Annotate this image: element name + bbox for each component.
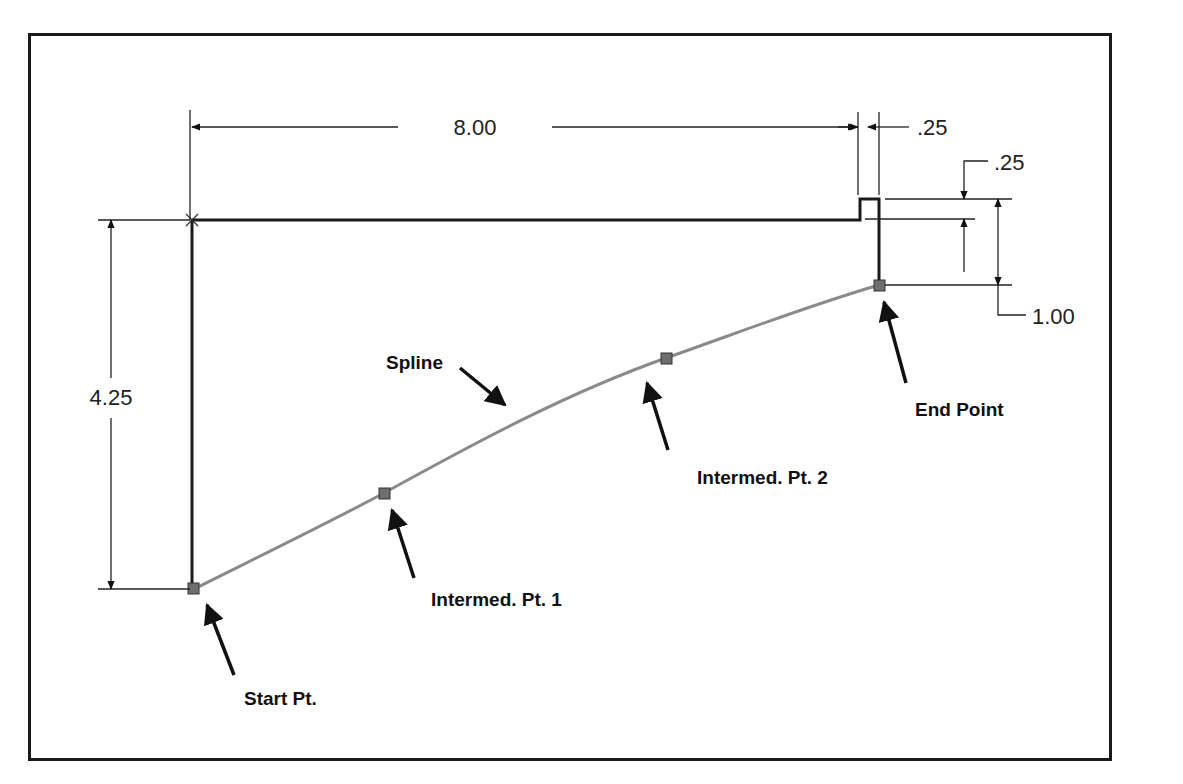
dimension-8-00: 8.00 xyxy=(192,115,856,140)
dimension-8-00-label: 8.00 xyxy=(454,115,497,140)
intermediate-1-arrow-icon xyxy=(392,510,414,578)
spline-arrow-icon xyxy=(460,368,505,405)
sketch-canvas: 8.00 .25 .25 1.00 4.25 Spline Start Pt. … xyxy=(0,0,1183,784)
dimension-horizontal-0-25: .25 xyxy=(838,115,948,140)
end-point-arrow-icon xyxy=(884,302,906,383)
dimension-horizontal-0-25-label: .25 xyxy=(917,115,948,140)
dimension-1-00 xyxy=(998,199,1026,315)
intermediate-point-2-label: Intermed. Pt. 2 xyxy=(697,467,828,488)
dimension-1-00-label: 1.00 xyxy=(1032,304,1075,329)
start-point-label: Start Pt. xyxy=(244,688,317,709)
callout-arrows xyxy=(207,302,906,675)
intermediate-point-1-label: Intermed. Pt. 1 xyxy=(431,589,562,610)
start-point-arrow-icon xyxy=(207,605,234,675)
extension-lines xyxy=(98,110,1012,589)
dimension-4-25-label: 4.25 xyxy=(90,385,133,410)
spline-label: Spline xyxy=(386,352,443,373)
sketch-profile xyxy=(192,199,879,589)
intermediate-2-arrow-icon xyxy=(647,383,668,450)
intermediate-point-1-marker xyxy=(379,488,390,499)
end-point-marker xyxy=(874,280,885,291)
spline-curve xyxy=(194,285,879,589)
intermediate-point-2-marker xyxy=(661,353,672,364)
dimension-vertical-0-25 xyxy=(964,161,988,272)
top-step-line xyxy=(192,199,879,285)
end-point-label: End Point xyxy=(915,399,1004,420)
dimension-vertical-0-25-label: .25 xyxy=(994,150,1025,175)
